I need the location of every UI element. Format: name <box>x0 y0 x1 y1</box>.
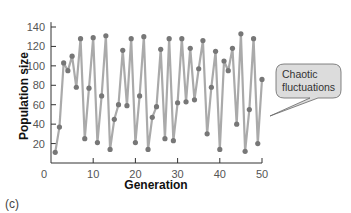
data-point <box>129 36 134 41</box>
data-point <box>103 33 108 38</box>
x-axis-title: Generation <box>124 178 187 192</box>
data-point <box>154 104 159 109</box>
panel-label: (c) <box>5 197 19 211</box>
data-point <box>141 34 146 39</box>
data-point <box>133 140 138 145</box>
data-point <box>150 115 155 120</box>
data-point <box>259 77 264 82</box>
series-line <box>55 34 262 153</box>
y-axis-title: Population size <box>17 52 31 140</box>
x-axis: 01020304050 <box>41 158 268 180</box>
data-point <box>247 107 252 112</box>
y-tick-label: 60 <box>33 99 45 111</box>
data-series <box>53 31 265 155</box>
y-tick-label: 140 <box>27 21 45 33</box>
data-point <box>116 102 121 107</box>
data-point <box>205 131 210 136</box>
data-point <box>124 103 129 108</box>
data-point <box>209 85 214 90</box>
data-point <box>255 141 260 146</box>
data-point <box>188 46 193 51</box>
y-tick-label: 120 <box>27 40 45 52</box>
data-point <box>78 36 83 41</box>
data-point <box>217 147 222 152</box>
y-tick-label: 20 <box>33 138 45 150</box>
data-point <box>112 117 117 122</box>
data-point <box>57 124 62 129</box>
data-point <box>70 54 75 59</box>
data-point <box>120 48 125 53</box>
data-point <box>234 122 239 127</box>
data-point <box>179 36 184 41</box>
y-tick-label: 80 <box>33 79 45 91</box>
data-point <box>158 47 163 52</box>
callout-text-line1: Chaotic <box>282 68 318 80</box>
data-point <box>230 46 235 51</box>
data-point <box>107 147 112 152</box>
data-point <box>82 136 87 141</box>
data-point <box>167 36 172 41</box>
callout: Chaotic fluctuations <box>270 64 341 116</box>
data-point <box>65 68 70 73</box>
data-point <box>200 38 205 43</box>
data-point <box>221 58 226 63</box>
callout-text-line2: fluctuations <box>282 81 335 93</box>
data-point <box>196 66 201 71</box>
data-point <box>86 86 91 91</box>
data-point <box>99 93 104 98</box>
data-point <box>226 68 231 73</box>
x-tick-label: 50 <box>256 168 268 180</box>
data-point <box>162 136 167 141</box>
data-point <box>251 36 256 41</box>
x-tick-label: 40 <box>214 168 226 180</box>
data-point <box>137 93 142 98</box>
data-point <box>91 35 96 40</box>
data-point <box>61 60 66 65</box>
data-point <box>74 85 79 90</box>
y-tick-label: 40 <box>33 118 45 130</box>
data-point <box>238 31 243 36</box>
data-point <box>213 49 218 54</box>
data-point <box>192 97 197 102</box>
data-point <box>183 99 188 104</box>
y-axis: 20406080100120140 <box>27 21 56 163</box>
data-point <box>175 100 180 105</box>
data-point <box>145 147 150 152</box>
data-point <box>95 140 100 145</box>
data-point <box>243 149 248 154</box>
x-tick-label: 10 <box>87 168 99 180</box>
population-chart: 20406080100120140 01020304050 Population… <box>0 0 351 213</box>
data-point <box>53 150 58 155</box>
x-tick-label: 0 <box>41 168 47 180</box>
data-point <box>171 138 176 143</box>
